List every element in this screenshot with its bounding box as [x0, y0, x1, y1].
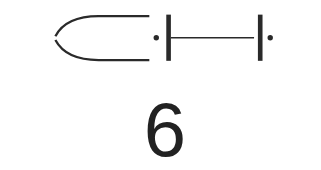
open-curve-bracket-bottom	[55, 40, 149, 60]
open-curve-bracket-top	[55, 16, 149, 36]
dot-right	[268, 35, 273, 40]
number-label: 6	[0, 92, 321, 168]
symbol-diagram	[0, 0, 321, 77]
dot-left	[154, 35, 159, 40]
